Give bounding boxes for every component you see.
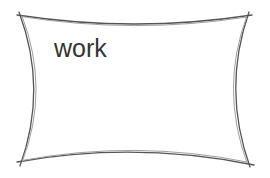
right-edge — [236, 12, 250, 167]
top-edge — [17, 15, 252, 24]
bottom-edge — [17, 152, 254, 165]
left-edge — [19, 12, 34, 166]
shape-label: work — [54, 34, 107, 62]
concave-rectangle-shape — [0, 0, 270, 178]
